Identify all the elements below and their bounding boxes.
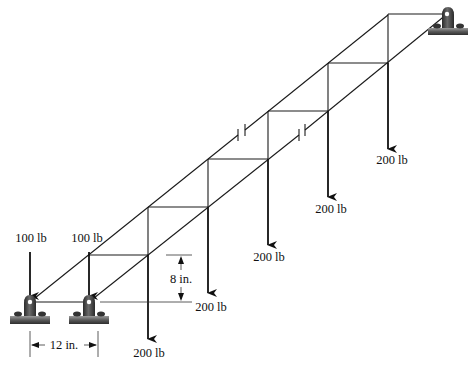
load-label-A: 100 lb bbox=[15, 231, 47, 245]
support-C bbox=[428, 7, 468, 35]
dimension-height: 8 in. bbox=[100, 255, 192, 302]
support-B bbox=[69, 295, 109, 324]
load-label-2: 200 lb bbox=[195, 300, 227, 314]
break-mark-lower bbox=[299, 124, 305, 141]
truss-diagram: 100 lb 100 lb 200 lb 200 lb 200 lb 200 l… bbox=[0, 0, 476, 366]
load-label-B: 100 lb bbox=[71, 231, 103, 245]
dimension-width: 12 in. bbox=[30, 331, 98, 357]
load-arrows bbox=[30, 63, 388, 339]
load-labels: 100 lb 100 lb 200 lb 200 lb 200 lb 200 l… bbox=[15, 153, 408, 360]
load-label-5: 200 lb bbox=[376, 153, 408, 167]
break-mark-upper bbox=[238, 124, 245, 141]
support-A bbox=[10, 295, 50, 324]
pin-icon bbox=[445, 12, 449, 16]
pin-icon bbox=[87, 300, 91, 304]
load-label-3: 200 lb bbox=[253, 250, 285, 264]
pin-icon bbox=[28, 300, 32, 304]
dimension-height-label: 8 in. bbox=[170, 272, 192, 286]
load-label-1: 200 lb bbox=[133, 346, 165, 360]
load-label-4: 200 lb bbox=[315, 202, 347, 216]
dimension-width-label: 12 in. bbox=[50, 338, 78, 352]
